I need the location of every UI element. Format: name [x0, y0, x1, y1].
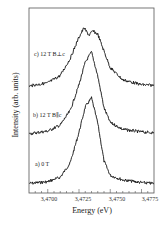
curve-label-a: a) 0 T — [35, 161, 49, 167]
spectrum-curve — [30, 52, 154, 135]
x-axis-label: Energy (eV) — [72, 206, 112, 215]
spectrum-plot — [0, 0, 164, 226]
y-axis-label: Intensity (arb. units) — [11, 72, 20, 137]
x-tick-label: 3,4750 — [109, 196, 126, 202]
curve-label-c: c) 12 T B⊥c — [34, 50, 65, 57]
spectrum-curve — [30, 28, 154, 87]
curve-label-b: b) 12 T B∥c — [33, 111, 61, 118]
spectrum-curve — [30, 97, 154, 185]
x-tick-label: 3,4775 — [142, 196, 159, 202]
x-tick-label: 3,4700 — [41, 196, 58, 202]
x-tick-label: 3,4725 — [75, 196, 92, 202]
x-axis-ticks — [35, 189, 148, 193]
